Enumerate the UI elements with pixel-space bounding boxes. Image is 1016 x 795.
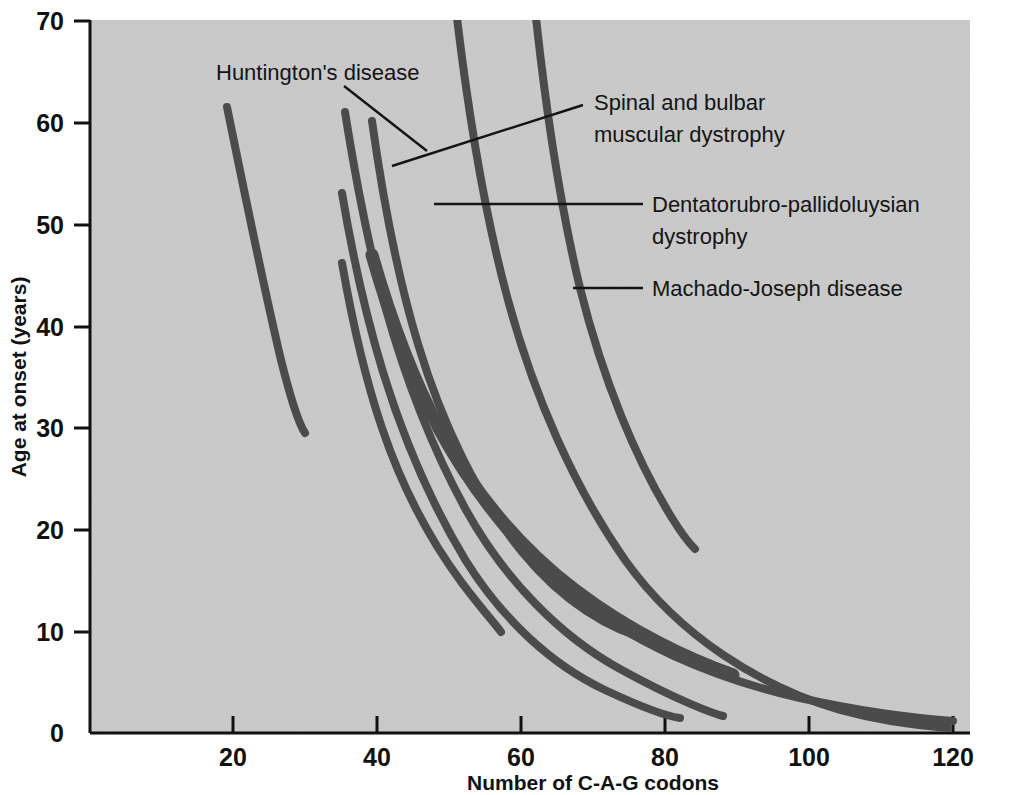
x-tick-label: 100 <box>788 743 830 771</box>
annotation-dentatorubro-line2: dystrophy <box>652 224 747 249</box>
annotation-huntingtons: Huntington's disease <box>216 60 420 85</box>
annotation-spinal-bulbar-line2: muscular dystrophy <box>594 122 785 147</box>
y-tick-label: 30 <box>36 414 64 442</box>
x-axis-title: Number of C-A-G codons <box>467 771 719 794</box>
x-tick-label: 120 <box>932 743 974 771</box>
x-tick-label: 40 <box>363 743 391 771</box>
y-tick-labels: 70 60 50 40 30 20 10 0 <box>36 7 64 747</box>
y-axis-title: Age at onset (years) <box>7 277 30 478</box>
y-axis-ticks <box>74 21 90 632</box>
y-tick-label: 70 <box>36 7 64 35</box>
x-tick-labels: 20 40 60 80 100 120 <box>219 743 974 771</box>
y-tick-label: 10 <box>36 618 64 646</box>
x-tick-label: 60 <box>507 743 535 771</box>
annotation-spinal-bulbar-line1: Spinal and bulbar <box>594 90 765 115</box>
x-tick-label: 20 <box>219 743 247 771</box>
y-tick-label: 50 <box>36 211 64 239</box>
chart-figure: 70 60 50 40 30 20 10 0 20 40 60 80 100 1… <box>0 0 1016 795</box>
cag-repeat-age-of-onset-chart: 70 60 50 40 30 20 10 0 20 40 60 80 100 1… <box>0 0 1016 795</box>
x-tick-label: 80 <box>651 743 679 771</box>
y-tick-label: 60 <box>36 109 64 137</box>
y-tick-label: 0 <box>50 719 64 747</box>
y-tick-label: 40 <box>36 313 64 341</box>
annotation-dentatorubro-line1: Dentatorubro-pallidoluysian <box>652 192 920 217</box>
y-tick-label: 20 <box>36 516 64 544</box>
annotation-machado-joseph: Machado-Joseph disease <box>652 276 903 301</box>
